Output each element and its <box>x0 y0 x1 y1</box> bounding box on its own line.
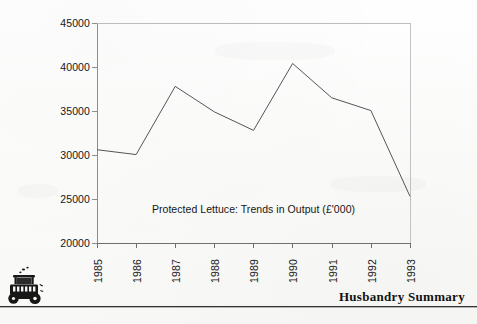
x-tick-1987: 1987 <box>171 259 182 283</box>
x-axis-labels: 1985 1986 1987 1988 1989 1990 1991 1992 … <box>0 0 477 324</box>
line-chart: 45000 40000 35000 30000 25000 20000 1985… <box>0 0 477 324</box>
x-tick-1993: 1993 <box>406 259 417 283</box>
footer-divider <box>0 306 477 307</box>
footer-title: Husbandry Summary <box>339 289 465 304</box>
x-tick-1986: 1986 <box>132 259 143 283</box>
x-tick-1985: 1985 <box>93 259 104 283</box>
x-tick-1988: 1988 <box>210 259 221 283</box>
chart-title: Protected Lettuce: Trends in Output (£'0… <box>97 203 410 216</box>
x-tick-1991: 1991 <box>328 259 339 283</box>
x-tick-1992: 1992 <box>367 259 378 283</box>
tractor-icon <box>4 264 48 310</box>
x-tick-1990: 1990 <box>288 259 299 283</box>
x-tick-1989: 1989 <box>249 259 260 283</box>
